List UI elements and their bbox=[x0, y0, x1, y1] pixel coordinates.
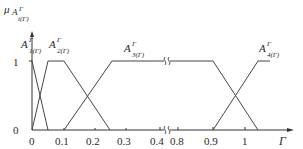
membership-function-chart: μ A Γ i(Γ) 1 0 0 0.1 0.2 0.3 0.4 0.8 0.9… bbox=[0, 0, 303, 149]
svg-text:Γ: Γ bbox=[18, 5, 24, 13]
svg-text:Γ: Γ bbox=[28, 36, 34, 44]
svg-text:Γ: Γ bbox=[56, 36, 62, 44]
y-tick-label-1: 1 bbox=[13, 56, 19, 68]
svg-text:Γ: Γ bbox=[131, 40, 137, 48]
svg-text:i(Γ): i(Γ) bbox=[18, 15, 29, 23]
svg-text:A: A bbox=[20, 38, 28, 50]
svg-text:0.3: 0.3 bbox=[117, 135, 131, 147]
curve-a3 bbox=[64, 61, 164, 130]
svg-text:A: A bbox=[258, 42, 266, 54]
svg-text:0.8: 0.8 bbox=[170, 135, 184, 147]
svg-text:1(Γ): 1(Γ) bbox=[29, 47, 42, 55]
svg-text:2(Γ): 2(Γ) bbox=[57, 47, 70, 55]
svg-text:0.9: 0.9 bbox=[204, 135, 218, 147]
svg-text:μ: μ bbox=[3, 3, 10, 15]
curve-a3-break-icon bbox=[164, 57, 170, 65]
svg-text:A: A bbox=[48, 38, 56, 50]
x-axis-arrow-icon bbox=[287, 128, 294, 132]
svg-text:0.1: 0.1 bbox=[55, 135, 69, 147]
svg-text:0.2: 0.2 bbox=[86, 135, 100, 147]
svg-text:0.4: 0.4 bbox=[150, 135, 164, 147]
curve-a4 bbox=[213, 61, 270, 130]
svg-text:0: 0 bbox=[29, 135, 35, 147]
label-a4: A Γ 4(Γ) bbox=[258, 40, 280, 59]
x-axis-label: Γ bbox=[278, 134, 287, 148]
y-tick-label-0: 0 bbox=[13, 124, 19, 136]
curve-a3-continued bbox=[170, 61, 258, 130]
label-a3: A Γ 3(Γ) bbox=[123, 40, 145, 59]
svg-text:1: 1 bbox=[242, 135, 248, 147]
svg-text:A: A bbox=[11, 7, 18, 17]
y-axis-label: μ A Γ i(Γ) bbox=[3, 3, 29, 23]
x-tick-labels: 0 0.1 0.2 0.3 0.4 0.8 0.9 1 bbox=[29, 135, 248, 147]
x-axis-break-icon bbox=[164, 126, 170, 134]
svg-text:4(Γ): 4(Γ) bbox=[267, 51, 280, 59]
svg-text:3(Γ): 3(Γ) bbox=[131, 51, 145, 59]
svg-text:A: A bbox=[123, 42, 131, 54]
label-a2: A Γ 2(Γ) bbox=[48, 36, 70, 55]
svg-text:Γ: Γ bbox=[266, 40, 272, 48]
label-a1: A Γ 1(Γ) bbox=[20, 36, 42, 55]
